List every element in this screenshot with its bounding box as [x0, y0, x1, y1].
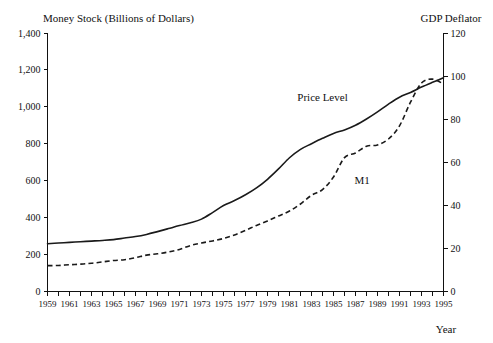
right-axis-title: GDP Deflator	[421, 12, 482, 24]
x-axis-tick-label: 1981	[281, 299, 299, 309]
y-axis-right-ticks	[444, 33, 448, 292]
x-axis-tick-label: 1965	[105, 299, 124, 309]
x-axis-tick-label: 1989	[369, 299, 388, 309]
series-label-m1: M1	[354, 174, 369, 186]
x-axis-tick-label: 1969	[149, 299, 168, 309]
y-axis-left-tick-label: 600	[26, 175, 41, 186]
x-axis-tick-label: 1961	[61, 299, 79, 309]
series-label-price-level: Price Level	[297, 91, 347, 103]
y-axis-right-labels: 020406080100120	[451, 28, 466, 298]
y-axis-right-tick-label: 0	[451, 286, 456, 297]
series-annotations: Price LevelM1	[297, 91, 369, 186]
x-axis-tick-label: 1985	[325, 299, 344, 309]
y-axis-right-tick-label: 40	[451, 200, 461, 211]
y-axis-left-ticks	[44, 33, 48, 292]
x-axis-tick-label: 1959	[39, 299, 58, 309]
x-axis-tick-label: 1977	[237, 299, 256, 309]
money-stock-gdp-deflator-chart: Money Stock (Billions of Dollars) GDP De…	[0, 0, 493, 343]
x-axis-labels: 1959196119631965196719691971197319751977…	[39, 299, 454, 309]
series-lines	[48, 78, 444, 266]
x-axis-title: Year	[436, 323, 457, 335]
y-axis-left-tick-label: 400	[26, 212, 41, 223]
y-axis-left-labels: 02004006008001,0001,2001,400	[18, 28, 41, 298]
x-axis-tick-label: 1991	[391, 299, 409, 309]
y-axis-left-tick-label: 800	[26, 138, 41, 149]
x-axis-tick-label: 1971	[171, 299, 189, 309]
y-axis-right-tick-label: 120	[451, 28, 466, 39]
y-axis-left-tick-label: 1,000	[18, 101, 41, 112]
x-axis-tick-label: 1995	[435, 299, 454, 309]
x-axis-tick-label: 1967	[127, 299, 146, 309]
y-axis-left: 02004006008001,0001,2001,400	[18, 28, 48, 298]
y-axis-left-tick-label: 1,200	[18, 64, 41, 75]
y-axis-right-tick-label: 80	[451, 114, 461, 125]
x-axis-ticks	[48, 292, 444, 296]
y-axis-left-tick-label: 200	[26, 249, 41, 260]
x-axis-tick-label: 1983	[303, 299, 322, 309]
x-axis-tick-label: 1975	[215, 299, 234, 309]
y-axis-left-tick-label: 0	[36, 286, 41, 297]
x-axis-tick-label: 1993	[413, 299, 432, 309]
x-axis-tick-label: 1973	[193, 299, 212, 309]
y-axis-left-tick-label: 1,400	[18, 28, 41, 39]
y-axis-right: 020406080100120	[444, 28, 466, 298]
series-line-price-level	[48, 78, 444, 244]
y-axis-right-tick-label: 20	[451, 243, 461, 254]
chart-figure: Money Stock (Billions of Dollars) GDP De…	[0, 0, 493, 343]
left-axis-title: Money Stock (Billions of Dollars)	[43, 12, 194, 25]
x-axis-tick-label: 1979	[259, 299, 278, 309]
y-axis-right-tick-label: 60	[451, 157, 461, 168]
y-axis-right-tick-label: 100	[451, 71, 466, 82]
x-axis-tick-label: 1987	[347, 299, 366, 309]
x-axis: 1959196119631965196719691971197319751977…	[39, 292, 454, 309]
x-axis-tick-label: 1963	[83, 299, 102, 309]
